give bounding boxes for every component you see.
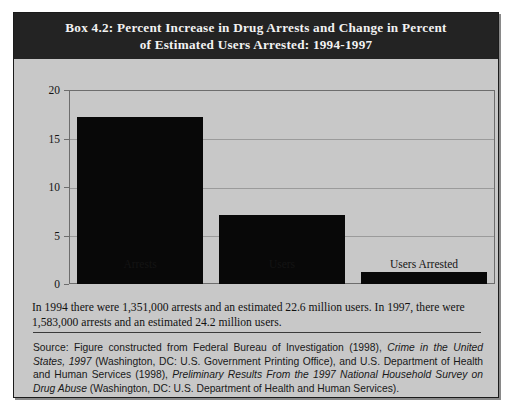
box-figure-screenshot: Box 4.2: Percent Increase in Drug Arrest… — [0, 0, 514, 417]
y-tick-mark — [64, 139, 69, 140]
box-title: Box 4.2: Percent Increase in Drug Arrest… — [47, 19, 464, 53]
box-title-banner: Box 4.2: Percent Increase in Drug Arrest… — [14, 13, 498, 59]
source-note: Source: Figure constructed from Federal … — [33, 341, 483, 395]
y-tick-mark — [64, 187, 69, 188]
figure-box: Box 4.2: Percent Increase in Drug Arrest… — [13, 12, 499, 398]
y-axis-tick-label: 10 — [20, 181, 60, 193]
box-title-line-2: of Estimated Users Arrested: 1994-1997 — [140, 37, 373, 52]
source-prefix: Source: Figure constructed from Federal … — [33, 342, 387, 353]
x-axis-label: Users Arrested — [353, 258, 495, 270]
y-tick-mark — [64, 284, 69, 285]
bar-users — [219, 215, 345, 284]
box-title-line-1: Box 4.2: Percent Increase in Drug Arrest… — [65, 20, 446, 35]
y-axis-tick-label: 0 — [20, 278, 60, 290]
source-divider — [33, 332, 481, 333]
y-axis-tick-label: 15 — [20, 133, 60, 145]
figure-note: In 1994 there were 1,351,000 arrests and… — [32, 301, 484, 330]
x-axis-label: Users — [211, 258, 353, 270]
source-suffix: (Washington, DC: U.S. Department of Heal… — [87, 383, 399, 394]
y-tick-mark — [64, 236, 69, 237]
y-tick-mark — [64, 90, 69, 91]
x-axis-label: Arrests — [69, 258, 211, 270]
y-axis-tick-label: 20 — [20, 84, 60, 96]
y-axis-tick-label: 5 — [20, 230, 60, 242]
bar-chart: 05101520 ArrestsUsersUsers Arrested — [14, 59, 498, 297]
bar-users-arrested — [361, 272, 487, 284]
